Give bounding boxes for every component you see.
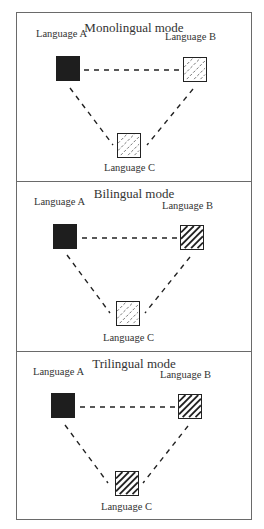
node-language-b-light-hatch bbox=[183, 57, 207, 82]
node-language-b-bold-hatch bbox=[178, 394, 202, 419]
node-language-b-bold-hatch bbox=[180, 225, 204, 250]
node-label-b: Language B bbox=[160, 369, 211, 380]
node-language-c-light-hatch bbox=[117, 133, 141, 158]
node-language-a-solid bbox=[56, 56, 80, 81]
node-language-c-light-hatch bbox=[116, 301, 140, 326]
node-label-c: Language C bbox=[103, 332, 154, 343]
node-label-b: Language B bbox=[162, 200, 213, 211]
node-label-a: Language A bbox=[36, 28, 87, 39]
node-language-c-bold-hatch bbox=[115, 471, 139, 496]
node-label-b: Language B bbox=[165, 31, 216, 42]
node-label-a: Language A bbox=[33, 366, 84, 377]
node-language-a-solid bbox=[53, 224, 77, 249]
node-label-c: Language C bbox=[101, 501, 152, 512]
node-language-a-solid bbox=[51, 393, 75, 418]
node-label-c: Language C bbox=[104, 162, 155, 173]
node-label-a: Language A bbox=[34, 196, 85, 207]
